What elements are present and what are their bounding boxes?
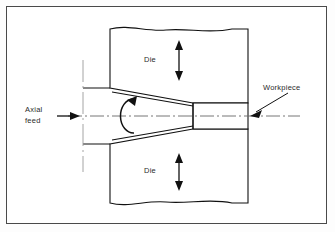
workpiece-label: Workpiece — [263, 83, 301, 92]
workpiece-leader-arrow — [250, 93, 288, 118]
axial-feed-arrow-head — [70, 112, 80, 120]
rotation-arrow — [120, 96, 137, 133]
rotation-arrow-head — [127, 96, 137, 106]
axial-feed-arrow — [57, 112, 80, 120]
upper-die-label: Die — [144, 55, 156, 64]
workpiece-leader-shaft — [256, 93, 288, 112]
figure-container: Axial feed Die Die Workpiece — [0, 0, 335, 232]
workpiece-leader-head — [250, 110, 262, 118]
axial-feed-label-line1: Axial — [25, 105, 43, 114]
swaging-diagram-canvas: Axial feed Die Die Workpiece — [0, 0, 335, 232]
lower-die-label: Die — [144, 166, 156, 175]
axial-feed-label-line2: feed — [25, 116, 41, 125]
